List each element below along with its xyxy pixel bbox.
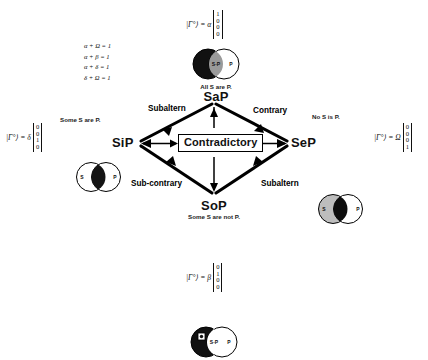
vector-sop: 0 1 0 0 — [213, 263, 222, 292]
venn-diagram-sep: S P — [312, 192, 428, 226]
vector-sip: 0 0 1 0 — [33, 123, 42, 152]
venn-sop-lens-label: S·P — [210, 339, 219, 345]
equation-line-4: δ + Ω = 1 — [84, 73, 111, 84]
corner-label-sap: SaP — [186, 89, 246, 104]
ket-vector-sip: |Γ°⟩ = δ 0 0 1 0 — [6, 123, 42, 152]
corner-label-sop: SoP — [184, 198, 244, 213]
ket-label-sep: |Γ°⟩ = Ω — [374, 133, 401, 142]
corner-label-sep: SeP — [291, 135, 316, 150]
venn-diagram-sop: S·P P — [184, 324, 428, 360]
vector-sip-component-3: 0 — [36, 144, 39, 151]
proposition-sep: No S is P. — [312, 113, 372, 120]
equation-line-1: α + Ω = 1 — [84, 41, 111, 52]
corner-label-sip: SiP — [112, 135, 134, 150]
ket-vector-sep: |Γ°⟩ = Ω 0 0 0 1 — [374, 123, 412, 152]
relation-label-contradictory: Contradictory — [178, 134, 263, 152]
equation-line-3: α + δ = 1 — [84, 62, 111, 73]
relation-label-contrary: Contrary — [253, 106, 287, 115]
venn-diagram-sip: S P — [70, 160, 428, 194]
constraint-equations: α + Ω = 1 α + β = 1 α + δ = 1 δ + Ω = 1 — [84, 41, 111, 84]
vector-sep: 0 0 0 1 — [403, 123, 412, 152]
venn-sap-lens-label: S·P — [212, 61, 221, 67]
ket-label-sop: |Γ°⟩ = β — [186, 273, 211, 282]
venn-diagram-sap: S·P P — [186, 47, 428, 81]
proposition-sop: Some S are not P. — [184, 213, 244, 220]
vector-sop-component-3: 0 — [216, 284, 219, 291]
proposition-sip: Some S are P. — [60, 116, 120, 123]
ket-vector-sap: |Γ°⟩ = α 1 0 0 0 — [186, 10, 223, 39]
ket-label-sip: |Γ°⟩ = δ — [6, 133, 31, 142]
ket-vector-sop: |Γ°⟩ = β 0 1 0 0 — [186, 263, 222, 292]
ket-label-sap: |Γ°⟩ = α — [186, 20, 211, 29]
relation-label-sub-contrary: Sub-contrary — [131, 179, 182, 188]
relation-label-subaltern-top-left: Subaltern — [148, 104, 186, 113]
relation-label-subaltern-bottom-right: Subaltern — [261, 179, 299, 188]
vector-sap: 1 0 0 0 — [213, 10, 222, 39]
vector-sep-component-3: 1 — [406, 144, 409, 151]
vector-sap-component-3: 0 — [216, 31, 219, 38]
equation-line-2: α + β = 1 — [84, 52, 111, 63]
